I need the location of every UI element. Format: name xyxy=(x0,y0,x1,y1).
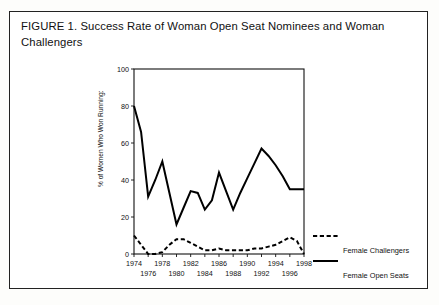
y-tick-label: 20 xyxy=(121,213,129,222)
y-tick-label: 100 xyxy=(117,65,129,74)
x-tick-label: 1988 xyxy=(225,269,241,278)
x-tick-label: 1982 xyxy=(183,259,199,268)
x-tick-label: 1978 xyxy=(154,259,170,268)
x-axis-ticks: 1974197819821986199019941998197619801984… xyxy=(126,254,312,278)
x-tick-label: 1984 xyxy=(197,269,213,278)
legend-label-female-open-seats: Female Open Seats xyxy=(343,271,409,280)
x-tick-label: 1994 xyxy=(268,259,284,268)
x-tick-label: 1990 xyxy=(239,259,255,268)
x-tick-label: 1980 xyxy=(169,269,185,278)
legend-label-female-challengers: Female Challengers xyxy=(343,246,409,255)
x-tick-label: 1986 xyxy=(211,259,227,268)
x-tick-label: 1976 xyxy=(140,269,156,278)
y-axis-ticks: 020406080100 xyxy=(117,65,134,259)
y-tick-label: 60 xyxy=(121,139,129,148)
x-tick-label: 1992 xyxy=(254,269,270,278)
x-tick-label: 1974 xyxy=(126,259,142,268)
chart-legend: Female Challengers Female Open Seats xyxy=(313,236,409,280)
x-tick-label: 1998 xyxy=(296,259,312,268)
y-tick-label: 40 xyxy=(121,176,129,185)
figure-container: FIGURE 1. Success Rate of Woman Open Sea… xyxy=(9,11,428,289)
y-tick-label: 80 xyxy=(121,102,129,111)
x-tick-label: 1996 xyxy=(282,269,298,278)
plot-frame xyxy=(134,69,304,254)
y-axis-title: % of Women Who Won Running: xyxy=(97,90,105,187)
y-tick-label: 0 xyxy=(125,250,129,259)
line-chart: % of Women Who Won Running: 020406080100… xyxy=(10,12,429,290)
chart-canvas: % of Women Who Won Running: 020406080100… xyxy=(10,12,429,290)
